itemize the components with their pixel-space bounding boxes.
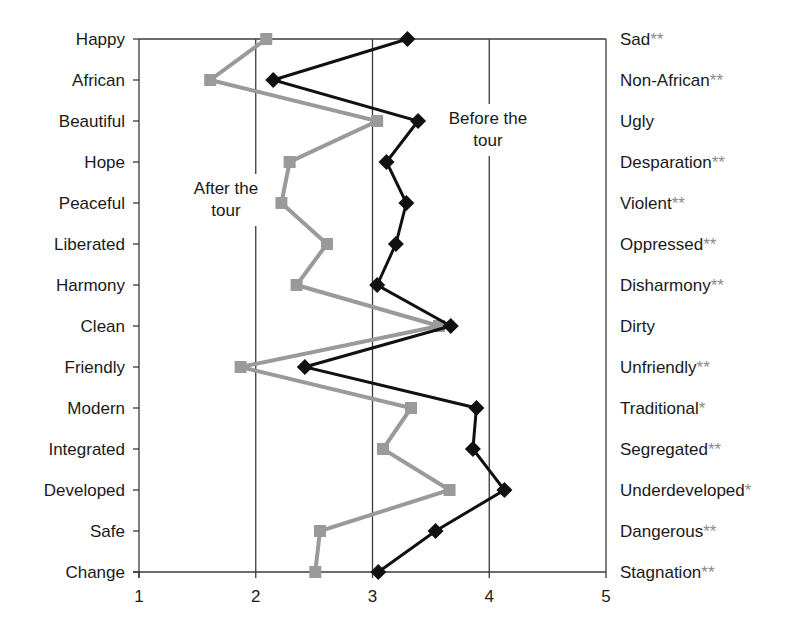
square-marker-icon xyxy=(260,33,272,45)
diamond-marker-icon xyxy=(369,277,385,293)
significance-marker: ** xyxy=(710,71,724,90)
significance-marker: ** xyxy=(708,440,722,459)
right-label: Violent** xyxy=(620,194,685,213)
significance-marker: ** xyxy=(650,30,664,49)
right-label: Traditional* xyxy=(620,399,706,418)
square-marker-icon xyxy=(309,566,321,578)
x-tick-label: 3 xyxy=(368,587,377,606)
right-label: Segregated** xyxy=(620,440,722,459)
significance-marker: * xyxy=(699,399,706,418)
left-label: Developed xyxy=(44,481,125,500)
left-adjective-labels: HappyAfricanBeautifulHopePeacefulLiberat… xyxy=(44,30,126,582)
significance-marker: * xyxy=(745,481,752,500)
right-label: Desparation** xyxy=(620,153,725,172)
right-label: Unfriendly** xyxy=(620,358,710,377)
left-label: Change xyxy=(65,563,125,582)
right-label: Dirty xyxy=(620,317,655,336)
diamond-marker-icon xyxy=(297,359,313,375)
x-tick-label: 5 xyxy=(601,587,610,606)
diamond-marker-icon xyxy=(398,195,414,211)
left-label: Hope xyxy=(84,153,125,172)
x-tick-label: 4 xyxy=(485,587,494,606)
right-label: Ugly xyxy=(620,112,655,131)
right-label: Non-African** xyxy=(620,71,723,90)
diamond-marker-icon xyxy=(400,31,416,47)
right-label: Dangerous** xyxy=(620,522,717,541)
left-label: Clean xyxy=(81,317,125,336)
right-label: Sad** xyxy=(620,30,664,49)
square-marker-icon xyxy=(291,279,303,291)
left-label: African xyxy=(72,71,125,90)
left-label: Happy xyxy=(76,30,126,49)
diamond-marker-icon xyxy=(388,236,404,252)
square-marker-icon xyxy=(275,197,287,209)
significance-marker: ** xyxy=(712,153,726,172)
square-marker-icon xyxy=(444,484,456,496)
semantic-differential-chart: HappyAfricanBeautifulHopePeacefulLiberat… xyxy=(0,0,803,639)
right-adjective-labels: Sad**Non-African**UglyDesparation**Viole… xyxy=(620,30,752,582)
square-marker-icon xyxy=(405,402,417,414)
series-annotations: Before thetourAfter thetour xyxy=(180,104,540,226)
before-tour-label: Before thetour xyxy=(438,104,540,156)
left-label: Modern xyxy=(67,399,125,418)
after-tour-label: After thetour xyxy=(180,174,274,226)
label-line: tour xyxy=(211,201,241,220)
left-label: Safe xyxy=(90,522,125,541)
square-marker-icon xyxy=(321,238,333,250)
significance-marker: ** xyxy=(703,235,717,254)
left-label: Harmony xyxy=(56,276,125,295)
left-label: Friendly xyxy=(65,358,126,377)
label-line: After the xyxy=(194,179,258,198)
significance-marker: ** xyxy=(697,358,711,377)
diamond-marker-icon xyxy=(443,318,459,334)
left-label: Liberated xyxy=(54,235,125,254)
left-label: Integrated xyxy=(48,440,125,459)
significance-marker: ** xyxy=(711,276,725,295)
right-label: Disharmony** xyxy=(620,276,724,295)
square-marker-icon xyxy=(204,74,216,86)
square-marker-icon xyxy=(284,156,296,168)
right-label: Oppressed** xyxy=(620,235,717,254)
x-tick-label: 2 xyxy=(251,587,260,606)
square-marker-icon xyxy=(235,361,247,373)
diamond-marker-icon xyxy=(468,400,484,416)
square-marker-icon xyxy=(314,525,326,537)
diamond-marker-icon xyxy=(265,72,281,88)
x-axis-tick-labels: 12345 xyxy=(134,587,610,606)
right-label: Underdeveloped* xyxy=(620,481,752,500)
significance-marker: ** xyxy=(703,522,717,541)
label-line: tour xyxy=(473,131,503,150)
label-line: Before the xyxy=(449,109,527,128)
left-label: Peaceful xyxy=(59,194,125,213)
x-tick-label: 1 xyxy=(134,587,143,606)
right-label: Stagnation** xyxy=(620,563,715,582)
square-marker-icon xyxy=(371,115,383,127)
left-label: Beautiful xyxy=(59,112,125,131)
square-marker-icon xyxy=(377,443,389,455)
significance-marker: ** xyxy=(672,194,686,213)
significance-marker: ** xyxy=(701,563,715,582)
